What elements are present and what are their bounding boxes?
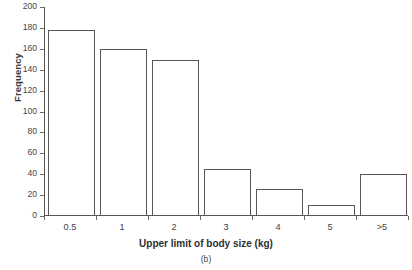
y-axis-tick-label: 20 <box>27 189 37 200</box>
bar <box>308 205 355 216</box>
x-axis-tick-label: 0.5 <box>44 222 96 232</box>
figure-panel-b: Frequency 020406080100120140160180200 0.… <box>0 0 412 270</box>
y-axis-tick: 20 <box>40 195 44 196</box>
y-axis-tick: 200 <box>40 7 44 8</box>
x-axis-title: Upper limit of body size (kg) <box>0 238 412 249</box>
y-axis-tick-label: 40 <box>27 168 37 179</box>
x-axis-tick-label: 1 <box>96 222 148 232</box>
x-axis-tick <box>304 216 305 220</box>
x-axis-tick-label: 3 <box>200 222 252 232</box>
bar <box>100 49 147 216</box>
x-axis-tick-label: 5 <box>304 222 356 232</box>
y-axis-tick: 140 <box>40 70 44 71</box>
plot-area: 020406080100120140160180200 0.512345>5 <box>44 7 408 216</box>
y-axis-tick-label: 140 <box>23 64 37 75</box>
x-axis-tick <box>408 216 409 220</box>
bar <box>204 169 251 216</box>
y-axis-tick-label: 80 <box>27 126 37 137</box>
y-axis-tick-label: 120 <box>23 85 37 96</box>
x-axis-tick-label: 2 <box>148 222 200 232</box>
x-axis-tick <box>252 216 253 220</box>
y-axis-tick-label: 180 <box>23 22 37 33</box>
y-axis-tick: 100 <box>40 112 44 113</box>
y-axis-tick-label: 100 <box>23 106 37 117</box>
x-axis-tick <box>200 216 201 220</box>
x-axis-tick <box>148 216 149 220</box>
bar <box>256 189 303 216</box>
y-axis-tick-label: 200 <box>23 1 37 12</box>
y-axis-title: Frequency <box>12 18 23 138</box>
y-axis-tick: 160 <box>40 49 44 50</box>
y-axis-tick: 80 <box>40 132 44 133</box>
y-axis-tick-label: 160 <box>23 43 37 54</box>
y-axis-tick: 60 <box>40 153 44 154</box>
y-axis-tick-label: 60 <box>27 147 37 158</box>
bar <box>360 174 407 216</box>
y-axis-tick-label: 0 <box>32 210 37 221</box>
y-axis-line <box>44 7 45 216</box>
x-axis-tick <box>44 216 45 220</box>
x-axis-tick <box>96 216 97 220</box>
y-axis-tick: 120 <box>40 91 44 92</box>
figure-caption: (b) <box>0 254 412 264</box>
x-axis-tick-label: >5 <box>356 222 408 232</box>
y-axis-tick: 40 <box>40 174 44 175</box>
x-axis-tick <box>356 216 357 220</box>
bar <box>48 30 95 216</box>
y-axis-tick: 180 <box>40 28 44 29</box>
bar <box>152 60 199 216</box>
x-axis-tick-label: 4 <box>252 222 304 232</box>
